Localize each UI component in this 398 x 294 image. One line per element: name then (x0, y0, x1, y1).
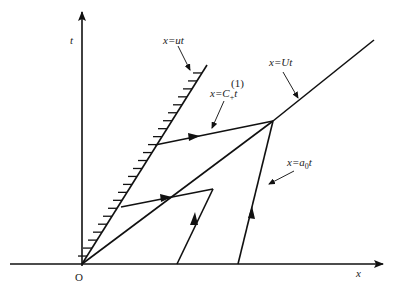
piston-label: x=ut (162, 34, 185, 46)
piston-path-line (82, 65, 207, 264)
origin-label: O (75, 271, 83, 283)
characteristic-label-prefix: x=C (209, 87, 230, 99)
sound-label-suffix: t (309, 156, 313, 168)
wave-diagram: t x O x=ut x=Ut x=C+t (1) x=a0t (0, 0, 398, 294)
characteristic-label-sup: (1) (231, 77, 244, 90)
arrowhead-incoming-1 (190, 212, 198, 225)
characteristic-from-origin-line (82, 121, 273, 264)
sound-label: x=a0t (286, 156, 313, 171)
pointer-shock-label (283, 72, 298, 98)
arrowhead-incoming-2 (248, 206, 255, 219)
pointer-piston-label (178, 46, 190, 70)
shock-label: x=Ut (268, 56, 293, 68)
x-axis-label: x (355, 267, 361, 279)
pointer-characteristic-label (212, 101, 224, 128)
incoming-characteristic-1 (177, 189, 213, 264)
pointer-sound-label (269, 171, 294, 184)
t-axis-label: t (70, 34, 74, 46)
characteristic-label: x=C+t (209, 87, 238, 102)
sound-label-prefix: x=a (286, 156, 305, 168)
piston-hatch-marks (78, 73, 202, 256)
